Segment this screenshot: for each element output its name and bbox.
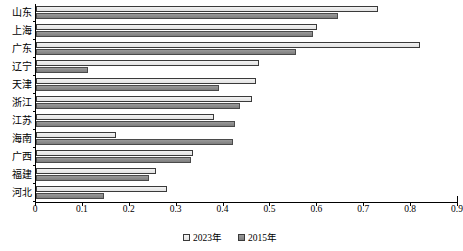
bar-2015: [36, 31, 313, 37]
category-label: 江苏: [0, 112, 34, 130]
bar-row: [36, 112, 458, 130]
bar-2015: [36, 13, 338, 19]
x-axis-tick-label: 0.8: [404, 204, 416, 214]
legend-swatch-2015-icon: [238, 234, 245, 241]
bar-row: [36, 58, 458, 76]
chart-legend: 2023年 2015年: [0, 228, 460, 246]
bar-2023: [36, 150, 193, 156]
x-axis-tick-label: 0.9: [451, 204, 463, 214]
bar-rows: [36, 4, 458, 202]
category-label: 海南: [0, 130, 34, 148]
legend-label-2015: 2015年: [248, 230, 277, 244]
bar-2023: [36, 114, 214, 120]
category-label: 广西: [0, 148, 34, 166]
bar-2023: [36, 168, 156, 174]
bar-row: [36, 22, 458, 40]
x-axis-tick-label: 0.3: [170, 204, 182, 214]
category-label: 上海: [0, 22, 34, 40]
bar-2023: [36, 96, 252, 102]
bar-row: [36, 148, 458, 166]
plot-area: [35, 4, 458, 203]
bar-2015: [36, 121, 235, 127]
category-label: 福建: [0, 166, 34, 184]
bar-row: [36, 40, 458, 58]
x-axis-tick-label: 0.4: [217, 204, 229, 214]
bar-row: [36, 184, 458, 202]
x-axis-tick-label: 0.6: [310, 204, 322, 214]
bar-2015: [36, 103, 240, 109]
bar-row: [36, 166, 458, 184]
x-axis-tick-label: 0.2: [123, 204, 135, 214]
legend-swatch-2023-icon: [183, 234, 190, 241]
bar-2015: [36, 175, 149, 181]
x-axis-tick-label: 0.5: [264, 204, 276, 214]
bar-2015: [36, 139, 233, 145]
bar-2015: [36, 157, 191, 163]
bar-2023: [36, 24, 317, 30]
bar-2023: [36, 132, 116, 138]
bar-2015: [36, 67, 88, 73]
x-axis-tick-label: 0.1: [76, 204, 88, 214]
x-axis-tick-label: 0.7: [357, 204, 369, 214]
category-label: 浙江: [0, 94, 34, 112]
bar-2023: [36, 42, 420, 48]
bar-2023: [36, 186, 167, 192]
legend-item-2023[interactable]: 2023年: [183, 230, 222, 244]
category-label: 天津: [0, 76, 34, 94]
bar-2015: [36, 193, 104, 199]
bar-2015: [36, 49, 296, 55]
x-axis-tick-labels: 00.10.20.30.40.50.60.70.80.9: [0, 204, 460, 218]
category-label: 辽宁: [0, 58, 34, 76]
bar-row: [36, 130, 458, 148]
bar-2023: [36, 6, 378, 12]
bar-2015: [36, 85, 219, 91]
category-label: 广东: [0, 40, 34, 58]
category-label: 河北: [0, 184, 34, 202]
legend-label-2023: 2023年: [193, 230, 222, 244]
legend-item-2015[interactable]: 2015年: [238, 230, 277, 244]
bar-row: [36, 94, 458, 112]
category-label: 山东: [0, 4, 34, 22]
bar-2023: [36, 60, 259, 66]
x-axis-tick-label: 0: [33, 204, 38, 214]
category-axis-labels: 山东 上海 广东 辽宁 天津 浙江 江苏 海南 广西 福建 河北: [0, 4, 34, 202]
bar-row: [36, 76, 458, 94]
bar-row: [36, 4, 458, 22]
bar-2023: [36, 78, 256, 84]
